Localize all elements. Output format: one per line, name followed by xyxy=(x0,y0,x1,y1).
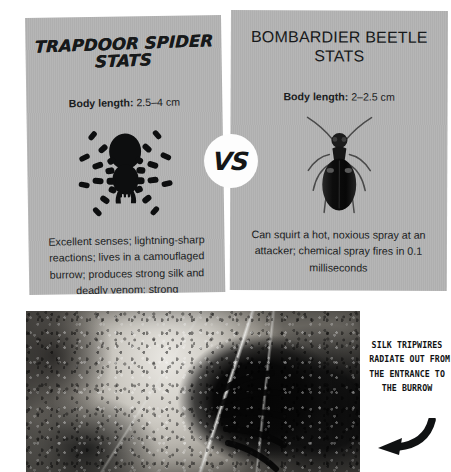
beetle-photo-icon xyxy=(291,108,387,220)
photo-spider-legs xyxy=(26,311,360,472)
caption-line-3: THE ENTRANCE TO xyxy=(369,367,445,381)
caption-line-4: THE BURROW xyxy=(369,381,445,395)
body-length-bombardier-beetle: Body length: 2–2.5 cm xyxy=(231,90,448,103)
spider-silhouette-icon xyxy=(67,121,185,227)
panel-title-trapdoor-spider: TRAPDOOR SPIDER STATS xyxy=(25,32,222,74)
spider-art-container xyxy=(27,120,225,227)
versus-label: VS xyxy=(212,149,250,174)
burrow-photograph xyxy=(26,311,360,472)
body-length-label: Body length: xyxy=(283,90,348,102)
body-length-label: Body length: xyxy=(69,96,134,109)
caption-line-1: SILK TRIPWIRES xyxy=(369,338,445,352)
beetle-art-container xyxy=(230,108,447,221)
caption-line-2: RADIATE OUT FROM xyxy=(369,352,445,366)
versus-badge: VS xyxy=(204,134,258,188)
body-length-value: 2.5–4 cm xyxy=(136,96,180,109)
stat-panel-bombardier-beetle: BOMBARDIER BEETLE STATS Body length: 2–2… xyxy=(230,10,448,291)
body-length-value: 2–2.5 cm xyxy=(351,91,395,103)
photo-caption: SILK TRIPWIRES RADIATE OUT FROM THE ENTR… xyxy=(364,338,450,395)
curved-arrow-left-icon xyxy=(362,418,436,458)
panel-title-bombardier-beetle: BOMBARDIER BEETLE STATS xyxy=(231,28,448,66)
infographic-page: TRAPDOOR SPIDER STATS Body length: 2.5–4… xyxy=(0,0,451,472)
panel-description-trapdoor-spider: Excellent senses; lightning-sharp reacti… xyxy=(37,231,216,295)
body-length-trapdoor-spider: Body length: 2.5–4 cm xyxy=(26,95,222,110)
panel-description-bombardier-beetle: Can squirt a hot, noxious spray at an at… xyxy=(239,226,438,276)
stat-panel-trapdoor-spider: TRAPDOOR SPIDER STATS Body length: 2.5–4… xyxy=(25,15,225,295)
